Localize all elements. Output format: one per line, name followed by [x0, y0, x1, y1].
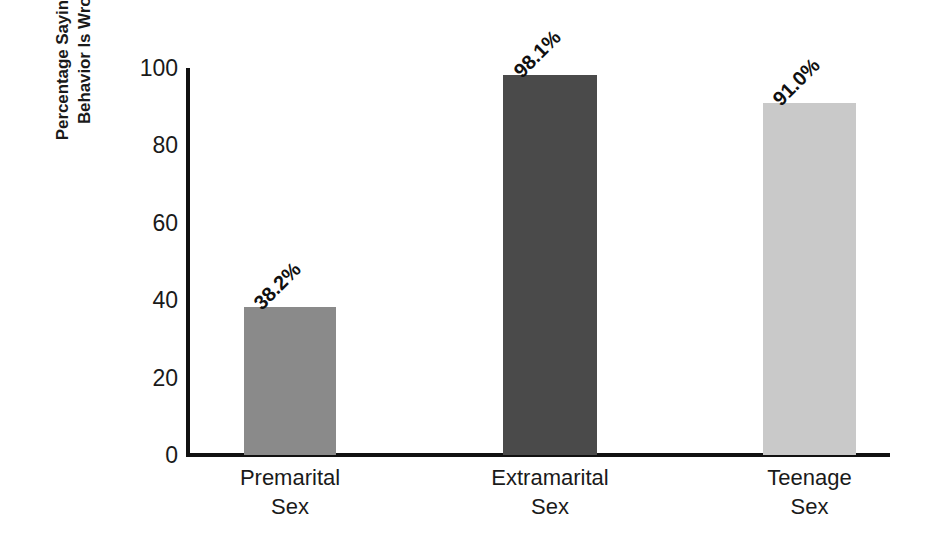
- y-tick-label-20: 20: [38, 367, 178, 390]
- plot-area: 38.2% 98.1% 91.0%: [190, 68, 890, 455]
- category-label-line-2: Sex: [700, 492, 920, 521]
- value-label-extramarital-sex: 98.1%: [510, 27, 564, 81]
- y-tick-label-60: 60: [38, 212, 178, 235]
- category-label-line-1: Extramarital: [491, 465, 608, 490]
- category-label-line-1: Premarital: [240, 465, 340, 490]
- bar-teenage-sex: [763, 103, 856, 455]
- category-label-extramarital-sex: Extramarital Sex: [440, 463, 660, 521]
- category-label-line-1: Teenage: [767, 465, 851, 490]
- category-label-line-2: Sex: [180, 492, 400, 521]
- bar-chart: Percentage Saying the Behavior Is Wrong …: [0, 0, 934, 555]
- y-tick-label-80: 80: [38, 134, 178, 157]
- y-tick-label-0: 0: [38, 444, 178, 467]
- category-label-line-2: Sex: [440, 492, 660, 521]
- value-label-premarital-sex: 38.2%: [250, 259, 304, 313]
- y-tick-label-100: 100: [38, 57, 178, 80]
- y-tick-label-40: 40: [38, 289, 178, 312]
- value-label-teenage-sex: 91.0%: [769, 55, 823, 109]
- bar-premarital-sex: [244, 307, 336, 455]
- bar-extramarital-sex: [503, 75, 597, 455]
- y-axis-tick-labels: 100 80 60 40 20 0: [30, 0, 178, 555]
- x-axis-category-labels: Premarital Sex Extramarital Sex Teenage …: [190, 463, 890, 543]
- category-label-premarital-sex: Premarital Sex: [180, 463, 400, 521]
- category-label-teenage-sex: Teenage Sex: [700, 463, 920, 521]
